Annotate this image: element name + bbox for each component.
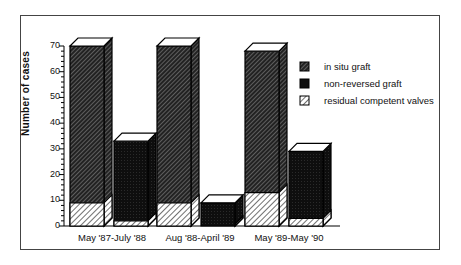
legend-item-in-situ-graft: in situ graft — [300, 58, 434, 75]
chart-plot — [0, 0, 461, 265]
y-tick-label: 70 — [44, 40, 60, 50]
legend: in situ graft non-reversed graft residua… — [300, 58, 434, 109]
y-tick-label: 20 — [44, 169, 60, 179]
y-tick-label: 40 — [44, 117, 60, 127]
legend-item-residual-competent-valves: residual competent valves — [300, 92, 434, 109]
y-tick-label: 60 — [44, 66, 60, 76]
y-tick-label: 10 — [44, 194, 60, 204]
y-tick-label: 50 — [44, 91, 60, 101]
x-category-label: Aug '88-April '89 — [150, 232, 250, 243]
bars — [70, 38, 331, 226]
y-tick-label: 0 — [44, 220, 60, 230]
legend-item-non-reversed-graft: non-reversed graft — [300, 75, 434, 92]
x-category-label: May '89-May '90 — [239, 232, 339, 243]
y-tick-label: 30 — [44, 143, 60, 153]
x-category-label: May '87-July '88 — [62, 232, 162, 243]
y-axis-label: Number of cases — [20, 51, 31, 136]
